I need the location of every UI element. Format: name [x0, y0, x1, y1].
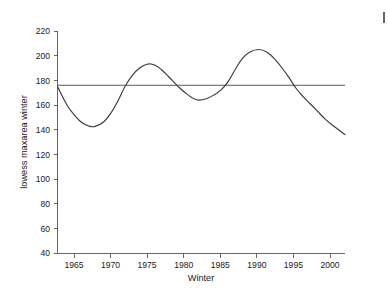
y-tick-label: 60 — [40, 224, 50, 234]
y-tick-100: 100 — [36, 174, 58, 184]
x-tick-label: 1980 — [174, 260, 193, 270]
x-tick-1990: 1990 — [247, 254, 266, 271]
y-tick-label: 160 — [36, 100, 51, 110]
y-tick-160: 160 — [36, 100, 58, 110]
x-axis-ticks: 1965 1970 1975 1980 1985 1990 — [64, 254, 339, 271]
y-tick-label: 40 — [40, 248, 50, 258]
y-tick-80: 80 — [40, 199, 57, 209]
y-tick-120: 120 — [36, 150, 58, 160]
y-tick-40: 40 — [40, 248, 57, 258]
y-tick-60: 60 — [40, 224, 57, 234]
right-edge-artifact — [383, 12, 385, 23]
y-tick-180: 180 — [36, 76, 58, 86]
x-tick-label: 1990 — [247, 260, 266, 270]
chart-container: 220 200 180 160 140 120 — [0, 0, 388, 305]
x-tick-label: 1965 — [64, 260, 83, 270]
y-axis-title: lowess maxarea winter — [19, 95, 29, 188]
y-tick-label: 120 — [36, 150, 51, 160]
x-tick-1980: 1980 — [174, 254, 193, 271]
x-tick-1995: 1995 — [284, 254, 303, 271]
x-tick-label: 1985 — [211, 260, 230, 270]
y-tick-200: 200 — [36, 51, 58, 61]
x-tick-1970: 1970 — [101, 254, 120, 271]
y-tick-label: 100 — [36, 174, 51, 184]
x-tick-1985: 1985 — [211, 254, 230, 271]
x-tick-1975: 1975 — [138, 254, 157, 271]
x-tick-label: 1970 — [101, 260, 120, 270]
x-tick-label: 2000 — [320, 260, 339, 270]
x-tick-1965: 1965 — [64, 254, 83, 271]
y-tick-label: 200 — [36, 51, 51, 61]
y-tick-220: 220 — [36, 26, 58, 36]
lowess-curve-path — [58, 50, 346, 135]
y-tick-label: 80 — [40, 199, 50, 209]
lowess-line-chart: 220 200 180 160 140 120 — [0, 0, 388, 305]
x-axis-title: Winter — [188, 273, 215, 283]
y-tick-label: 180 — [36, 76, 51, 86]
y-tick-label: 220 — [36, 26, 51, 36]
y-tick-140: 140 — [36, 125, 58, 135]
y-axis-ticks: 220 200 180 160 140 120 — [36, 26, 58, 258]
y-tick-label: 140 — [36, 125, 51, 135]
x-tick-2000: 2000 — [320, 254, 339, 271]
x-tick-label: 1995 — [284, 260, 303, 270]
x-tick-label: 1975 — [138, 260, 157, 270]
